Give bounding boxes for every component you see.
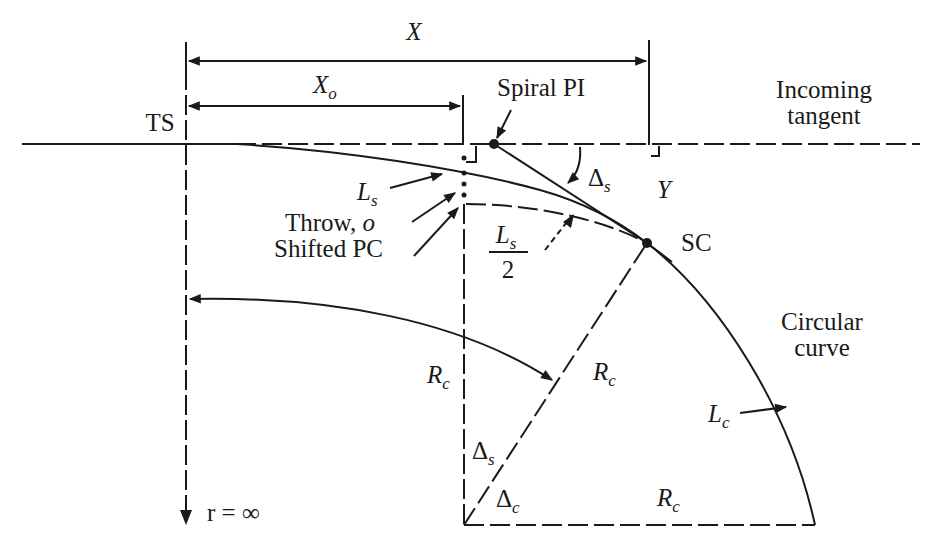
label-ls-half: Ls 2: [489, 221, 528, 283]
label-sc: SC: [681, 229, 712, 256]
label-xo: Xo: [312, 71, 337, 103]
radius-to-sc-line: [464, 243, 647, 525]
lc-pointer: [740, 407, 786, 413]
label-incoming-tangent-2: tangent: [787, 102, 861, 129]
right-angle-mark-y: [651, 146, 659, 156]
right-angle-mark-xo: [466, 146, 476, 162]
label-incoming-tangent-1: Incoming: [776, 76, 872, 103]
label-r-infinity: r = ∞: [207, 499, 260, 526]
dimension-xo: Xo: [189, 71, 463, 145]
label-throw: Throw, o: [285, 209, 375, 236]
rc-swing-arrow: [190, 299, 552, 380]
circular-curve: [647, 243, 815, 525]
svg-text:2: 2: [502, 256, 515, 283]
delta-s-angle-arc: [568, 147, 580, 183]
spiral-tangent-line: [494, 144, 647, 243]
label-circular-curve-2: curve: [794, 334, 850, 361]
label-delta-s-center: Δs: [472, 437, 495, 469]
label-spiral-pi: Spiral PI: [497, 74, 585, 101]
label-rc-bottom: Rc: [656, 484, 680, 516]
ts-vertical-line: [180, 70, 192, 525]
label-circular-curve-1: Circular: [781, 308, 864, 335]
label-ts: TS: [145, 109, 174, 136]
throw-dots: [462, 156, 467, 198]
label-lc: Lc: [707, 400, 730, 432]
ls-pointer: [390, 174, 442, 188]
spiral-pi-pointer: [497, 110, 511, 138]
label-rc-left: Rc: [426, 361, 450, 393]
label-y: Y: [657, 176, 674, 203]
spiral-curve-diagram: X Xo Incoming tangent TS r = ∞ Spiral PI: [0, 0, 939, 554]
svg-text:Ls: Ls: [495, 221, 517, 253]
label-ls: Ls: [356, 178, 378, 210]
label-shifted-pc: Shifted PC: [274, 235, 383, 262]
label-delta-c: Δc: [496, 485, 520, 517]
label-rc-diagonal: Rc: [592, 358, 616, 390]
arrow-down-icon: [180, 510, 192, 525]
label-x: X: [405, 18, 423, 45]
label-delta-s: Δs: [588, 164, 611, 196]
